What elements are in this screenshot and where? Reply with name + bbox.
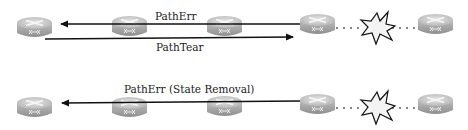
router-icon — [418, 94, 453, 114]
top-row: PathErr PathTear — [17, 10, 453, 53]
bottom-row: PathErr (State Removal) — [17, 83, 453, 124]
patherr-state-removal-arrow — [62, 101, 300, 103]
router-icon — [418, 14, 453, 34]
explosion-icon — [361, 12, 395, 44]
router-icon — [300, 14, 335, 34]
router-icon — [207, 96, 242, 116]
pathtear-label: PathTear — [156, 41, 204, 53]
rsvp-patherr-diagram: PathErr PathTear PathErr (State Removal) — [0, 0, 468, 130]
router-icon — [300, 94, 335, 114]
router-icon — [112, 97, 147, 117]
explosion-icon — [361, 91, 395, 124]
router-icon — [112, 16, 147, 36]
patherr-label: PathErr — [155, 10, 198, 22]
router-icon — [17, 17, 52, 37]
router-icon — [17, 97, 52, 117]
pathtear-arrow — [45, 37, 293, 39]
router-icon — [207, 16, 242, 36]
patherr-state-removal-label: PathErr (State Removal) — [124, 83, 254, 95]
